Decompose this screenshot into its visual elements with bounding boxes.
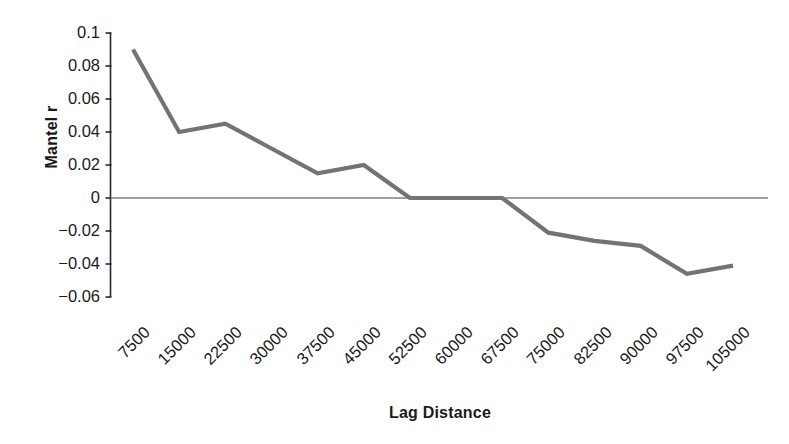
mantel-correlogram-chart: Mantel r 0.10.080.060.040.020−0.02−0.04−… bbox=[0, 0, 789, 444]
x-axis-tick-labels: 7500150002250030000375004500052500600006… bbox=[0, 0, 789, 444]
x-axis-title: Lag Distance bbox=[340, 404, 540, 422]
